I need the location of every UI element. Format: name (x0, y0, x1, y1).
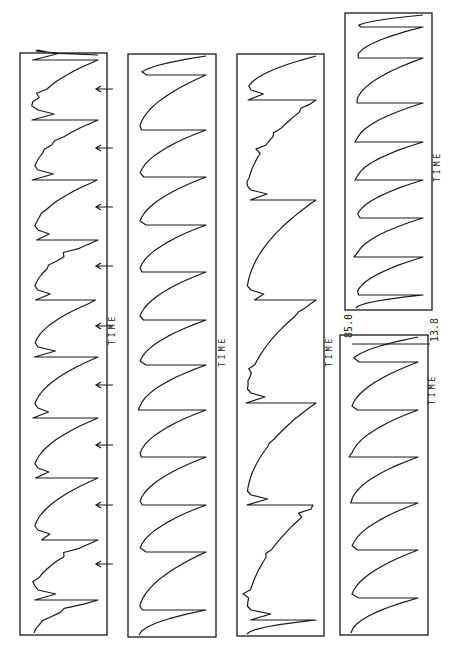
trace-3 (243, 56, 316, 634)
trace-5 (349, 337, 418, 633)
figure: TIME TIME TIME TIME TIME 85.0 13.8 (0, 0, 455, 653)
y-max-label: 85.0 (343, 314, 354, 338)
arrow-icon (96, 502, 113, 508)
panel-2-frame (128, 54, 216, 637)
panel-2-time-label: TIME (218, 336, 227, 367)
trace-1 (32, 50, 98, 633)
panel-4b-time-label: TIME (428, 374, 437, 405)
arrow-icon (96, 561, 113, 567)
arrow-icon (96, 263, 113, 269)
arrow-icon (96, 382, 113, 388)
panel-1-frame (20, 53, 107, 635)
arrow-icon (96, 145, 113, 151)
panel-1-time-label: TIME (108, 314, 117, 345)
arrow-icon (96, 204, 113, 210)
arrow-icon (96, 442, 113, 448)
panel-3-time-label: TIME (325, 336, 334, 367)
y-min-label: 13.8 (429, 318, 440, 342)
trace-2 (138, 56, 206, 635)
panel-3-frame (237, 54, 324, 636)
trace-4 (354, 15, 423, 308)
arrow-icon (96, 86, 113, 92)
panel-4a-time-label: TIME (433, 151, 442, 182)
